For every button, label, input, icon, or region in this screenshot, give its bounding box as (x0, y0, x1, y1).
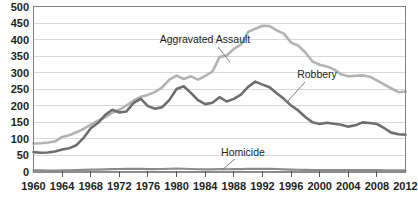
x-axis-tick-label: 1980 (164, 180, 188, 192)
x-axis-tick-label: 1988 (222, 180, 246, 192)
x-axis-tick-label: 2000 (307, 180, 331, 192)
y-axis-tick-label: 450 (11, 17, 29, 29)
x-axis-tick-labels: 1960196419681972197619801984198819921996… (21, 180, 417, 192)
y-axis-tick-label: 350 (11, 50, 29, 62)
y-axis-tick-label: 250 (11, 83, 29, 95)
crime-rate-line-chart: 050100150200250300350400450500 196019641… (0, 0, 418, 198)
series-line-robbery (34, 82, 406, 153)
y-axis-tick-labels: 050100150200250300350400450500 (11, 1, 29, 179)
y-axis-tick-label: 500 (11, 1, 29, 13)
y-axis-tick-label: 150 (11, 116, 29, 128)
x-axis-tick-label: 1964 (50, 180, 75, 192)
x-axis-tick-label: 1972 (107, 180, 131, 192)
x-axis-tick-label: 1968 (78, 180, 102, 192)
y-axis-tick-label: 200 (11, 100, 29, 112)
y-axis-tick-label: 100 (11, 133, 29, 145)
series-annotations: Aggravated Assault Robbery Homicide (160, 33, 338, 170)
x-axis-tick-label: 2004 (336, 180, 361, 192)
x-axis-tick-label: 1960 (21, 180, 45, 192)
x-axis-tick-label: 2012 (393, 180, 417, 192)
x-axis-tick-label: 1996 (279, 180, 303, 192)
x-axis-tick-label: 1976 (136, 180, 160, 192)
series-group (34, 26, 406, 171)
gridline-group (34, 7, 406, 156)
leader-line-robbery (288, 82, 305, 101)
y-axis-tick-label: 0 (23, 166, 29, 178)
y-axis-tick-label: 400 (11, 34, 29, 46)
x-axis-tick-label: 1992 (250, 180, 274, 192)
x-axis-tick-label: 1984 (193, 180, 218, 192)
annotation-aggravated-assault: Aggravated Assault (160, 33, 251, 45)
series-line-homicide (34, 169, 406, 171)
x-axis-tick-label: 2008 (365, 180, 389, 192)
y-axis-tick-label: 50 (17, 149, 29, 161)
chart-plot-area: 050100150200250300350400450500 196019641… (0, 0, 418, 198)
annotation-homicide: Homicide (221, 146, 265, 158)
y-axis-tick-label: 300 (11, 67, 29, 79)
annotation-robbery: Robbery (297, 68, 337, 80)
